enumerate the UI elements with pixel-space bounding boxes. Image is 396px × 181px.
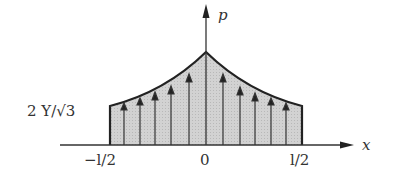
y-axis-label: p [218, 6, 228, 24]
tick-right: l/2 [290, 151, 309, 169]
edge-value-label: 2 Y/√3 [27, 102, 75, 120]
tick-left: −l/2 [84, 151, 116, 169]
x-axis-arrow-icon [340, 142, 354, 149]
pressure-diagram: p x −l/2 0 l/2 2 Y/√3 [0, 0, 396, 181]
tick-center: 0 [200, 151, 210, 169]
p-axis-arrow-icon [203, 4, 210, 18]
x-axis-label: x [362, 136, 371, 154]
